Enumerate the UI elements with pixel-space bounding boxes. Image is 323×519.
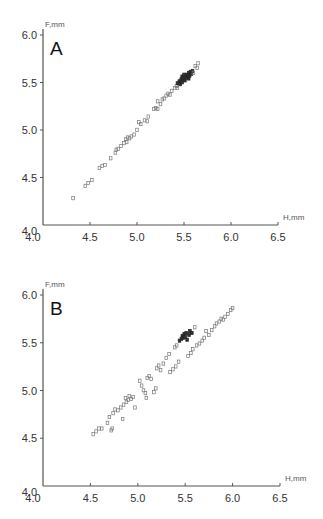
- x-tick-label: 5.5: [178, 492, 193, 504]
- panel-letter: A: [50, 38, 63, 59]
- data-point: [170, 89, 173, 92]
- data-point: [191, 348, 194, 351]
- x-tick-label: 4.5: [83, 492, 98, 504]
- data-point: [101, 164, 104, 167]
- y-tick-label: 4.5: [22, 432, 37, 444]
- data-point: [120, 144, 123, 147]
- data-point: [84, 184, 87, 187]
- data-point: [106, 421, 109, 424]
- data-point: [98, 166, 101, 169]
- y-tick-label: 5.5: [22, 77, 37, 89]
- data-point: [140, 384, 143, 387]
- scatter-plot-a: 4.04.55.05.56.04.04.55.05.56.06.5F,mmH,m…: [0, 0, 323, 260]
- data-point: [136, 128, 139, 131]
- data-point: [186, 338, 189, 341]
- x-tick-label: 4.5: [82, 231, 97, 243]
- data-point: [87, 181, 90, 184]
- data-point: [168, 352, 171, 355]
- x-tick-label: 5.5: [176, 231, 191, 243]
- x-tick-label: 6.5: [270, 231, 285, 243]
- data-point: [108, 415, 111, 418]
- data-point: [191, 331, 194, 334]
- data-point: [195, 344, 198, 347]
- x-tick-label: 5.0: [130, 492, 145, 504]
- data-point: [92, 433, 95, 436]
- data-point: [198, 342, 201, 345]
- data-point: [159, 369, 162, 372]
- x-axis-label: H,mm: [283, 213, 305, 222]
- x-axis-label: H,mm: [285, 474, 307, 483]
- data-point: [205, 329, 208, 332]
- data-point: [114, 408, 117, 411]
- data-point: [95, 430, 98, 433]
- data-point: [121, 417, 124, 420]
- x-tick-label: 4.0: [25, 231, 40, 243]
- data-point: [100, 427, 103, 430]
- y-tick-label: 5.5: [22, 337, 37, 349]
- x-tick-label: 6.5: [272, 492, 287, 504]
- data-point: [98, 427, 101, 430]
- y-tick-label: 6.0: [22, 289, 37, 301]
- x-tick-label: 6.0: [225, 492, 240, 504]
- data-point: [227, 312, 230, 315]
- y-tick-label: 5.0: [22, 385, 37, 397]
- data-point: [159, 103, 162, 106]
- scatter-panel-a: 4.04.55.05.56.04.04.55.05.56.06.5F,mmH,m…: [0, 0, 323, 260]
- data-point: [155, 387, 158, 390]
- data-point: [197, 62, 200, 65]
- data-point: [193, 326, 196, 329]
- data-point: [122, 403, 125, 406]
- data-point: [109, 157, 112, 160]
- panel-letter: B: [50, 298, 63, 319]
- y-axis-label: F,mm: [45, 280, 65, 289]
- data-point: [177, 360, 180, 363]
- data-point: [169, 371, 172, 374]
- data-point: [124, 396, 127, 399]
- data-point: [123, 142, 126, 145]
- data-point: [91, 179, 94, 182]
- x-tick-label: 4.0: [25, 492, 40, 504]
- data-point: [190, 351, 193, 354]
- scatter-plot-b: 4.04.55.05.56.04.04.55.05.56.06.5F,mmH,m…: [0, 260, 323, 519]
- data-point: [162, 362, 165, 365]
- data-point: [174, 365, 177, 368]
- data-point: [187, 354, 190, 357]
- data-point: [145, 396, 148, 399]
- data-point: [188, 333, 191, 336]
- y-tick-label: 5.0: [22, 124, 37, 136]
- y-axis-label: F,mm: [45, 20, 65, 29]
- scatter-panel-b: 4.04.55.05.56.04.04.55.05.56.06.5F,mmH,m…: [0, 260, 323, 519]
- data-point: [208, 333, 211, 336]
- data-point: [104, 163, 107, 166]
- data-point: [172, 368, 175, 371]
- data-point: [210, 329, 213, 332]
- data-point: [165, 356, 168, 359]
- y-tick-label: 4.5: [22, 172, 37, 184]
- data-point: [185, 331, 188, 334]
- data-point: [147, 115, 150, 118]
- data-point: [112, 412, 115, 415]
- data-point: [146, 120, 149, 123]
- data-point: [134, 406, 137, 409]
- data-point: [181, 81, 184, 84]
- x-tick-label: 5.0: [129, 231, 144, 243]
- data-point: [153, 391, 156, 394]
- x-tick-label: 6.0: [223, 231, 238, 243]
- data-point: [119, 406, 122, 409]
- data-point: [143, 119, 146, 122]
- data-point: [133, 133, 136, 136]
- data-point: [72, 197, 75, 200]
- y-tick-label: 6.0: [22, 29, 37, 41]
- data-point: [156, 100, 159, 103]
- data-point: [117, 409, 120, 412]
- data-point: [138, 379, 141, 382]
